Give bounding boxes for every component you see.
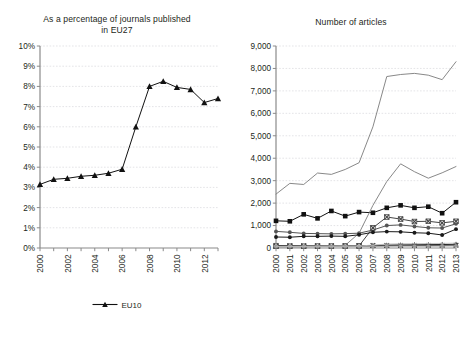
svg-text:2010: 2010 xyxy=(173,254,182,273)
svg-text:2006: 2006 xyxy=(355,254,364,273)
svg-text:2004: 2004 xyxy=(91,254,100,273)
gridlines xyxy=(276,46,456,226)
gridlines xyxy=(40,46,218,228)
svg-text:1%: 1% xyxy=(23,224,35,233)
plot-area-left: 0%1%2%3%4%5%6%7%8%9%10%20002002200420062… xyxy=(0,38,234,296)
svg-text:2007: 2007 xyxy=(369,254,378,273)
chart-svg-left: 0%1%2%3%4%5%6%7%8%9%10%20002002200420062… xyxy=(0,38,234,296)
svg-text:2005: 2005 xyxy=(341,254,350,273)
svg-text:3%: 3% xyxy=(23,183,35,192)
svg-text:2,000: 2,000 xyxy=(251,199,272,208)
chart-title-left: As a percentage of journals published in… xyxy=(0,14,234,36)
svg-text:2006: 2006 xyxy=(118,254,127,273)
svg-text:9,000: 9,000 xyxy=(251,42,272,51)
legend-label-EU10: EU10 xyxy=(121,301,141,310)
x-axis-ticks: 2000200220042006200820102012 xyxy=(36,248,218,273)
svg-text:2011: 2011 xyxy=(425,254,434,272)
legend-item-EU10[interactable]: EU10 xyxy=(92,300,141,311)
y-axis-ticks: 0%1%2%3%4%5%6%7%8%9%10% xyxy=(19,42,40,253)
svg-text:3,000: 3,000 xyxy=(251,177,272,186)
svg-text:2008: 2008 xyxy=(383,254,392,273)
svg-text:2000: 2000 xyxy=(272,254,281,273)
svg-text:2013: 2013 xyxy=(452,254,461,273)
chart-svg-right: 01,0002,0003,0004,0005,0006,0007,0008,00… xyxy=(234,38,468,296)
svg-text:7,000: 7,000 xyxy=(251,87,272,96)
svg-text:2009: 2009 xyxy=(397,254,406,273)
svg-text:2012: 2012 xyxy=(201,254,210,273)
svg-text:4,000: 4,000 xyxy=(251,154,272,163)
chart-title-left-line2: in EU27 xyxy=(0,25,234,36)
y-axis-ticks: 01,0002,0003,0004,0005,0006,0007,0008,00… xyxy=(251,42,277,253)
svg-text:2012: 2012 xyxy=(438,254,447,273)
svg-text:2008: 2008 xyxy=(146,254,155,273)
svg-text:2000: 2000 xyxy=(36,254,45,273)
svg-text:2002: 2002 xyxy=(300,254,309,273)
svg-text:7%: 7% xyxy=(23,103,35,112)
legend-marker-icon-EU10 xyxy=(92,300,118,311)
svg-text:8%: 8% xyxy=(23,82,35,91)
svg-text:2010: 2010 xyxy=(411,254,420,273)
svg-text:6,000: 6,000 xyxy=(251,109,272,118)
chart-panel-right: Number of articles 01,0002,0003,0004,000… xyxy=(234,0,468,344)
svg-text:8,000: 8,000 xyxy=(251,64,272,73)
svg-text:0: 0 xyxy=(266,244,271,253)
svg-text:6%: 6% xyxy=(23,123,35,132)
svg-text:2%: 2% xyxy=(23,204,35,213)
svg-text:2003: 2003 xyxy=(314,254,323,273)
svg-text:9%: 9% xyxy=(23,62,35,71)
figure-root: As a percentage of journals published in… xyxy=(0,0,468,344)
plot-area-right: 01,0002,0003,0004,0005,0006,0007,0008,00… xyxy=(234,38,468,296)
chart-title-right: Number of articles xyxy=(234,17,468,28)
svg-text:2002: 2002 xyxy=(64,254,73,273)
svg-text:5,000: 5,000 xyxy=(251,132,272,141)
legend-left: EU10 xyxy=(0,300,234,311)
series-PL xyxy=(276,62,456,194)
x-axis-ticks: 2000200120022003200420052006200720082009… xyxy=(272,248,461,273)
series-EU10 xyxy=(37,78,221,187)
svg-text:1,000: 1,000 xyxy=(251,221,272,230)
svg-text:5%: 5% xyxy=(23,143,35,152)
svg-text:2004: 2004 xyxy=(328,254,337,273)
legend-key-EU10 xyxy=(92,300,118,309)
svg-text:4%: 4% xyxy=(23,163,35,172)
chart-title-left-line1: As a percentage of journals published xyxy=(0,14,234,25)
chart-title-right-line1: Number of articles xyxy=(234,17,468,28)
svg-text:10%: 10% xyxy=(19,42,35,51)
svg-text:2001: 2001 xyxy=(286,254,295,273)
svg-text:0%: 0% xyxy=(23,244,35,253)
chart-panel-left: As a percentage of journals published in… xyxy=(0,0,234,344)
